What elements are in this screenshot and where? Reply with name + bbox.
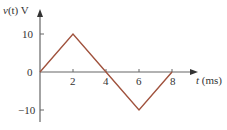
chart: v(t) V 10 0 −10 2 4 6 8 t (ms): [0, 0, 227, 130]
y-axis-arrow-icon: [37, 9, 43, 17]
x-tick-label-6: 6: [136, 75, 142, 87]
x-tick-label-2: 2: [70, 75, 76, 87]
y-axis-label: v(t) V: [3, 4, 29, 17]
y-tick-label-0: 0: [27, 66, 33, 78]
x-tick-label-8: 8: [170, 75, 176, 87]
x-tick-label-4: 4: [103, 75, 109, 87]
x-axis-label: t (ms): [196, 74, 222, 87]
y-tick-label-neg10: −10: [18, 104, 36, 116]
y-tick-label-10: 10: [22, 28, 34, 40]
